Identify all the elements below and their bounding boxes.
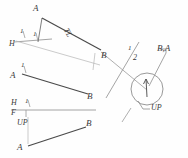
label-aux-fold-tick: 1: [21, 62, 25, 69]
label-point-b-aux-view: B: [87, 92, 93, 101]
label-fold-h-top: H: [9, 40, 15, 48]
label-fold-tick-right: 1: [33, 31, 37, 38]
drawing-sheet: A H 1 1 TL B A 1 B H 1 F UP A B 1 2 B,A …: [0, 0, 188, 158]
label-up-front-view: UP: [17, 119, 28, 127]
label-up-point-view: UP: [151, 104, 162, 112]
label-point-a-top-view: A: [33, 4, 39, 13]
label-fold-f-hf: F: [11, 109, 16, 117]
label-fold-1-upper: 1: [128, 45, 132, 52]
label-fold-h-hf: H: [11, 99, 17, 107]
label-point-b-front-view: B: [86, 119, 92, 128]
line-ab-aux-view: [22, 74, 88, 94]
fold-line-12-lower-dash: [122, 108, 131, 122]
label-point-a-aux-view: A: [10, 71, 16, 80]
construction-line-parallel-ab: [16, 41, 100, 65]
label-hf-tick-upper: 1: [25, 98, 29, 105]
projector-b-tick: [93, 53, 95, 70]
line-ab-front-view: [28, 127, 86, 146]
projector-b-to-point-view: [101, 52, 147, 90]
label-point-a-front-view: A: [17, 143, 23, 152]
label-fold-2-lower: 2: [133, 54, 137, 62]
leader-ba-stem: [149, 53, 166, 86]
projector-a-to-fold: [38, 18, 42, 42]
label-fold-tick-left: 1: [20, 28, 24, 35]
geometry-linework: [0, 0, 188, 158]
fold-line-h1: [14, 39, 52, 42]
label-point-ba-point-view: B,A: [157, 44, 170, 53]
label-point-b-top-view: B: [101, 51, 107, 60]
